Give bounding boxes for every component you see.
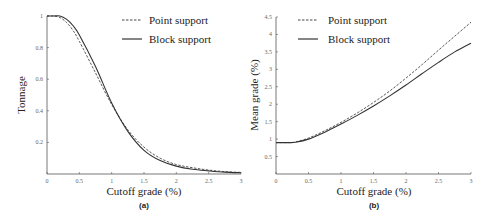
y-tick-label: 2.5 [265,84,273,90]
x-tick-label: 0 [46,178,49,184]
chart-panel-b: 00.511.522.530.511.522.533.544.5 Point s… [248,14,473,210]
legend-label-block-a: Block support [149,33,211,45]
y-tick-label: 0.5 [265,154,273,160]
x-tick-label: 1.5 [370,178,378,184]
y-tick-label: 4.5 [265,14,273,20]
x-tick-label: 2.5 [435,178,443,184]
panel-label-b: (b) [369,201,380,210]
x-tick-label: 2.5 [205,178,213,184]
x-axis-title-a: Cutoff grade (%) [107,185,182,198]
x-tick-label: 1.5 [140,178,148,184]
x-tick-label: 2 [405,178,408,184]
y-axis-title-a: Tonnage [15,76,27,114]
x-tick-label: 1 [110,178,113,184]
y-tick-label: 1 [269,136,272,142]
legend-a: Point support Block support [122,14,211,45]
y-tick-label: 0.4 [36,108,44,114]
y-tick-label: 0.8 [36,45,44,51]
chart-panel-a: 00.511.522.530.20.40.60.81 Point support… [15,13,243,210]
x-tick-label: 3 [240,178,243,184]
x-tick-label: 0.5 [76,178,84,184]
legend-b: Point support Block support [298,14,390,45]
y-tick-label: 3.5 [265,49,273,55]
x-tick-label: 3 [470,178,473,184]
x-tick-label: 0.5 [305,178,313,184]
y-axis-title-b: Mean grade (%) [248,59,261,131]
legend-label-block-b: Block support [328,33,390,45]
y-tick-label: 4 [269,31,272,37]
figure: 00.511.522.530.20.40.60.81 Point support… [0,0,492,222]
legend-label-point-b: Point support [328,14,387,26]
y-tick-label: 1 [40,13,43,19]
x-tick-label: 1 [340,178,343,184]
y-tick-label: 3 [269,66,272,72]
series-point-support-line [47,16,241,173]
y-tick-label: 0.6 [36,76,44,82]
x-tick-label: 2 [175,178,178,184]
x-axis-title-b: Cutoff grade (%) [337,185,412,198]
legend-label-point-a: Point support [149,14,208,26]
plot-lines-a [47,16,241,173]
y-tick-label: 2 [269,101,272,107]
y-tick-label: 0.2 [36,139,44,145]
x-tick-label: 0 [275,178,278,184]
y-tick-label: 1.5 [265,119,273,125]
series-block-support-line [47,16,241,173]
series-block-support-line [276,43,471,142]
panel-label-a: (a) [139,201,149,210]
